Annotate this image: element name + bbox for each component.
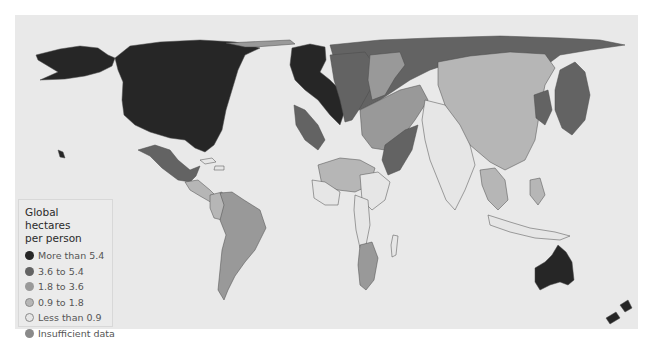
map-legend: Global hectares per person More than 5.4…: [18, 199, 113, 327]
region-central-africa: [354, 195, 370, 248]
region-south-america: [218, 192, 266, 300]
region-southern-africa: [358, 242, 378, 290]
legend-label: More than 5.4: [38, 250, 104, 261]
legend-swatch-icon: [25, 313, 34, 322]
legend-item-3-6-to-5-4: 3.6 to 5.4: [25, 264, 107, 280]
legend-item-more-than-5-4: More than 5.4: [25, 248, 107, 264]
legend-title-line-2: per person: [25, 232, 107, 245]
legend-label: Insufficient data: [38, 328, 115, 339]
region-japan: [555, 62, 590, 135]
legend-item-less-than-0-9: Less than 0.9: [25, 310, 107, 326]
legend-swatch-icon: [25, 298, 34, 307]
legend-swatch-icon: [25, 267, 34, 276]
legend-item-1-8-to-3-6: 1.8 to 3.6: [25, 279, 107, 295]
region-hawaii: [58, 150, 65, 158]
legend-swatch-icon: [25, 282, 34, 291]
legend-item-insufficient-data: Insufficient data: [25, 326, 107, 342]
region-new-zealand: [606, 300, 632, 324]
region-madagascar: [391, 235, 398, 257]
region-caribbean: [200, 158, 224, 170]
region-indonesia: [488, 215, 570, 240]
legend-swatch-icon: [25, 329, 34, 338]
legend-title: Global hectares per person: [25, 206, 107, 245]
region-philippines: [530, 178, 545, 205]
region-western-europe: [294, 105, 325, 150]
legend-label: Less than 0.9: [38, 312, 102, 323]
region-australia: [535, 245, 574, 290]
legend-title-line-1: Global hectares: [25, 206, 107, 232]
legend-label: 0.9 to 1.8: [38, 297, 84, 308]
region-mexico: [138, 145, 200, 182]
region-north-america: [115, 40, 260, 152]
legend-label: 3.6 to 5.4: [38, 266, 84, 277]
region-southeast-asia: [480, 168, 508, 210]
legend-item-0-9-to-1-8: 0.9 to 1.8: [25, 295, 107, 311]
region-alaska: [36, 46, 115, 80]
legend-swatch-icon: [25, 251, 34, 260]
legend-label: 1.8 to 3.6: [38, 281, 84, 292]
